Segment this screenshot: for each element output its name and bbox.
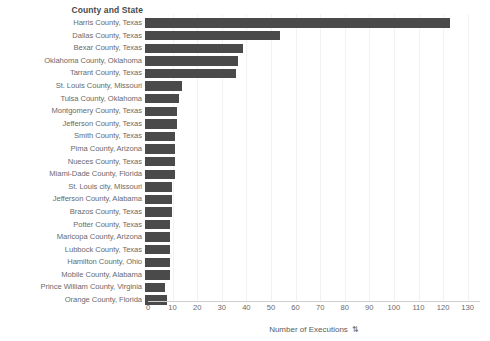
bar-row-label: Hamilton County, Ohio: [0, 256, 145, 269]
bar-cell: [145, 143, 490, 156]
bar-row[interactable]: Smith County, Texas: [0, 130, 490, 143]
bar[interactable]: [145, 232, 170, 241]
bar-row[interactable]: Tulsa County, Oklahoma: [0, 93, 490, 106]
bar-row-label: Maricopa County, Arizona: [0, 231, 145, 244]
bar-row[interactable]: Miami-Dade County, Florida: [0, 168, 490, 181]
bar[interactable]: [145, 18, 450, 27]
bar[interactable]: [145, 245, 170, 254]
bar-row-label: Oklahoma County, Oklahoma: [0, 55, 145, 68]
bar-cell: [145, 231, 490, 244]
bar[interactable]: [145, 283, 165, 292]
bar-row-label: Prince William County, Virginia: [0, 281, 145, 294]
bar[interactable]: [145, 81, 182, 90]
row-header: County and State: [0, 5, 145, 15]
bar[interactable]: [145, 182, 172, 191]
bar[interactable]: [145, 94, 179, 103]
bar[interactable]: [145, 207, 172, 216]
bar-cell: [145, 55, 490, 68]
bar-row[interactable]: Dallas County, Texas: [0, 30, 490, 43]
bar-row[interactable]: St. Louis city, Missouri: [0, 181, 490, 194]
x-axis-ticks: 0102030405060708090100110120130: [0, 303, 490, 317]
bar[interactable]: [145, 31, 280, 40]
bar-rows: Harris County, TexasDallas County, Texas…: [0, 17, 490, 307]
bar-row[interactable]: Jefferson County, Alabama: [0, 193, 490, 206]
bar-row-label: Harris County, Texas: [0, 17, 145, 30]
x-axis-tick-label: 0: [146, 303, 150, 312]
bar-row[interactable]: Maricopa County, Arizona: [0, 231, 490, 244]
bar-row-label: Tulsa County, Oklahoma: [0, 93, 145, 106]
bar-row-label: Miami-Dade County, Florida: [0, 168, 145, 181]
bar-row[interactable]: Hamilton County, Ohio: [0, 256, 490, 269]
bar[interactable]: [145, 44, 243, 53]
x-axis-tick-label: 40: [242, 303, 250, 312]
bar-row-label: Smith County, Texas: [0, 130, 145, 143]
bar-cell: [145, 67, 490, 80]
bar[interactable]: [145, 119, 177, 128]
bar[interactable]: [145, 144, 175, 153]
bar-row[interactable]: Montgomery County, Texas: [0, 105, 490, 118]
bar[interactable]: [145, 107, 177, 116]
row-header-label: County and State: [0, 5, 143, 15]
x-axis-tick-label: 30: [218, 303, 226, 312]
bar[interactable]: [145, 220, 170, 229]
bar-cell: [145, 130, 490, 143]
bar-cell: [145, 206, 490, 219]
sort-icon[interactable]: ⇅: [352, 325, 359, 334]
bar[interactable]: [145, 69, 236, 78]
bar-cell: [145, 42, 490, 55]
bar-row[interactable]: Mobile County, Alabama: [0, 269, 490, 282]
x-axis-tick-label: 50: [267, 303, 275, 312]
bar-row-label: Dallas County, Texas: [0, 30, 145, 43]
bar-cell: [145, 118, 490, 131]
bar[interactable]: [145, 157, 175, 166]
bar-cell: [145, 193, 490, 206]
bar-row[interactable]: Oklahoma County, Oklahoma: [0, 55, 490, 68]
x-axis-tick-label: 10: [168, 303, 176, 312]
bar-row-label: Bexar County, Texas: [0, 42, 145, 55]
bar-row[interactable]: Bexar County, Texas: [0, 42, 490, 55]
bar-cell: [145, 256, 490, 269]
bar-row[interactable]: Harris County, Texas: [0, 17, 490, 30]
x-axis-line: [148, 301, 480, 302]
bar-row[interactable]: Nueces County, Texas: [0, 156, 490, 169]
bar-row[interactable]: Pima County, Arizona: [0, 143, 490, 156]
bar-row[interactable]: Jefferson County, Texas: [0, 118, 490, 131]
bar-cell: [145, 105, 490, 118]
bar-row-label: Jefferson County, Texas: [0, 118, 145, 131]
x-axis-tick-label: 110: [412, 303, 424, 312]
bar-row-label: Potter County, Texas: [0, 219, 145, 232]
x-axis-tick-label: 60: [291, 303, 299, 312]
bar[interactable]: [145, 270, 170, 279]
bar-row-label: Tarrant County, Texas: [0, 67, 145, 80]
bar-row[interactable]: Tarrant County, Texas: [0, 67, 490, 80]
x-axis-title: Number of Executions⇅: [148, 325, 480, 334]
bar-row[interactable]: Prince William County, Virginia: [0, 281, 490, 294]
x-axis-tick-label: 80: [341, 303, 349, 312]
bar-cell: [145, 281, 490, 294]
bar-cell: [145, 181, 490, 194]
bar-cell: [145, 30, 490, 43]
bar-row[interactable]: Brazos County, Texas: [0, 206, 490, 219]
x-axis-tick-label: 100: [388, 303, 401, 312]
x-axis-tick-label: 130: [461, 303, 474, 312]
bar[interactable]: [145, 132, 175, 141]
bar-row-label: St. Louis city, Missouri: [0, 181, 145, 194]
x-axis-tick-label: 20: [193, 303, 201, 312]
bar-cell: [145, 17, 490, 30]
bar-row-label: Brazos County, Texas: [0, 206, 145, 219]
bar[interactable]: [145, 170, 175, 179]
bar-row[interactable]: Potter County, Texas: [0, 219, 490, 232]
bar[interactable]: [145, 258, 170, 267]
bar-row-label: Montgomery County, Texas: [0, 105, 145, 118]
bar-row-label: Pima County, Arizona: [0, 143, 145, 156]
bar-row[interactable]: St. Louis County, Missouri: [0, 80, 490, 93]
bar-cell: [145, 93, 490, 106]
bar-row[interactable]: Lubbock County, Texas: [0, 244, 490, 257]
bar[interactable]: [145, 56, 238, 65]
x-axis-tick-label: 70: [316, 303, 324, 312]
bar-cell: [145, 156, 490, 169]
x-axis-tick-label: 90: [365, 303, 373, 312]
bar-cell: [145, 168, 490, 181]
bar[interactable]: [145, 195, 172, 204]
x-axis-tick-label: 120: [437, 303, 450, 312]
